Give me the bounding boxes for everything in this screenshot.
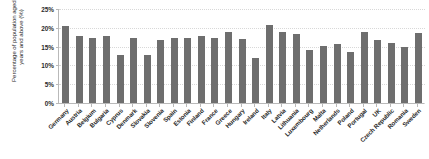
bar-slot — [303, 9, 317, 103]
bar-slot — [385, 9, 399, 103]
bar — [401, 47, 408, 103]
bar-slot — [276, 9, 290, 103]
bar — [198, 36, 205, 103]
bar — [388, 43, 395, 103]
bar-slot — [127, 9, 141, 103]
bar — [334, 44, 341, 103]
bar-slot — [140, 9, 154, 103]
bar-series — [59, 9, 425, 103]
bar — [347, 52, 354, 103]
bar — [117, 55, 124, 103]
bar — [293, 34, 300, 103]
y-tick-label: 10% — [41, 62, 54, 69]
bar — [144, 55, 151, 103]
bar — [184, 38, 191, 103]
bar — [239, 39, 246, 103]
bar-slot — [73, 9, 87, 103]
bar — [157, 40, 164, 103]
bar-slot — [86, 9, 100, 103]
bar — [171, 38, 178, 103]
bar-slot — [371, 9, 385, 103]
bar — [89, 38, 96, 103]
y-axis-title: Percentage of population aged 65 years a… — [10, 0, 24, 87]
bar — [320, 46, 327, 103]
bar-slot — [100, 9, 114, 103]
bar-slot — [398, 9, 412, 103]
y-tick-label: 25% — [41, 6, 54, 13]
bar — [361, 32, 368, 103]
bar-slot — [195, 9, 209, 103]
bar-slot — [412, 9, 426, 103]
bar-slot — [235, 9, 249, 103]
bar — [306, 50, 313, 103]
bar-slot — [208, 9, 222, 103]
bar-slot — [330, 9, 344, 103]
bar-slot — [154, 9, 168, 103]
bar — [225, 32, 232, 103]
plot-area: 0%5%10%15%20%25% — [58, 9, 425, 103]
bar — [374, 40, 381, 103]
bar — [415, 33, 422, 103]
bar-slot — [317, 9, 331, 103]
y-tick-label: 0% — [45, 100, 54, 107]
x-label-slot: Sweden — [411, 107, 425, 159]
bar-slot — [168, 9, 182, 103]
bar-slot — [222, 9, 236, 103]
bar — [279, 32, 286, 103]
bar — [266, 25, 273, 103]
bar — [62, 26, 69, 103]
y-tick-label: 20% — [41, 24, 54, 31]
y-tick-label: 15% — [41, 43, 54, 50]
y-tick-label: 5% — [45, 81, 54, 88]
bar — [252, 58, 259, 103]
x-axis-labels: GermanyAustriaBelgiumBulgariaCyprusDenma… — [58, 107, 424, 159]
bar-chart: Percentage of population aged 65 years a… — [0, 0, 429, 159]
bar — [211, 38, 218, 103]
bar — [76, 36, 83, 103]
bar — [130, 38, 137, 103]
bar-slot — [181, 9, 195, 103]
bar-slot — [290, 9, 304, 103]
bar-slot — [59, 9, 73, 103]
bar-slot — [262, 9, 276, 103]
bar-slot — [344, 9, 358, 103]
bar-slot — [357, 9, 371, 103]
bar — [103, 36, 110, 103]
bar-slot — [249, 9, 263, 103]
bar-slot — [113, 9, 127, 103]
